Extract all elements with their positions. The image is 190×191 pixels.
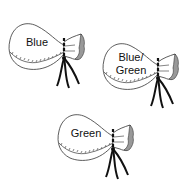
bag-green: Green xyxy=(58,115,133,179)
bag-label: Green xyxy=(71,127,102,139)
bags-diagram: Blue Blue/ Green Green xyxy=(0,0,190,191)
bag-blue-green: Blue/ Green xyxy=(103,44,178,108)
bag-blue: Blue xyxy=(9,24,84,88)
bag-label-line1: Blue/ xyxy=(118,51,144,63)
bag-label-line2: Green xyxy=(116,64,147,76)
bag-label: Blue xyxy=(26,36,48,48)
